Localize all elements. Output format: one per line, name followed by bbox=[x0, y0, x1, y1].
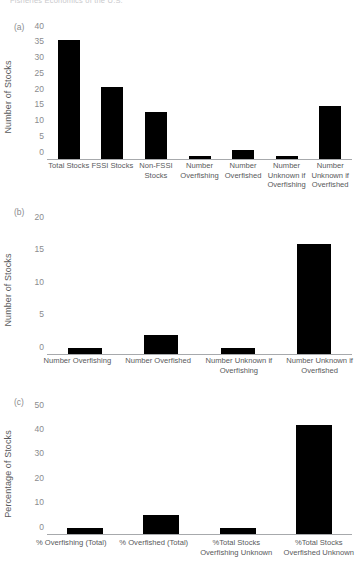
bar-slot bbox=[58, 34, 80, 159]
x-tick-label-line: Unknown if bbox=[308, 171, 352, 181]
x-tick-label: NumberUnknown ifOverfishing bbox=[265, 161, 309, 190]
y-tick-label: 10 bbox=[20, 277, 44, 286]
bar bbox=[143, 515, 179, 534]
y-axis-ticks-c: 01020304050 bbox=[20, 413, 44, 535]
y-tick-label: 0 bbox=[20, 522, 44, 531]
bar bbox=[68, 348, 102, 354]
x-tick-label-line: Overfishing bbox=[199, 366, 280, 376]
x-tick-label-line: Number Unknown if bbox=[199, 356, 280, 366]
x-tick-label-line: Total Stocks bbox=[47, 161, 91, 171]
bar-slot bbox=[319, 34, 341, 159]
x-tick-label-line: Number bbox=[308, 161, 352, 171]
bar-slot bbox=[221, 225, 255, 354]
bar bbox=[276, 156, 298, 159]
y-axis-label-b: Number of Stocks bbox=[0, 225, 16, 355]
y-tick-label: 35 bbox=[20, 37, 44, 46]
bar-slot bbox=[276, 34, 298, 159]
x-tick-label-line: Overfished bbox=[221, 171, 265, 181]
x-axis-labels-a: Total StocksFSSI StocksNon-FSSIStocksNum… bbox=[47, 161, 352, 203]
plot-area-c: Percentage of Stocks 01020304050 % Overf… bbox=[0, 395, 360, 573]
bar-group-c bbox=[47, 413, 352, 534]
bar-slot bbox=[297, 225, 331, 354]
bar-slot bbox=[67, 413, 103, 534]
bar-slot bbox=[101, 34, 123, 159]
bar-group-a bbox=[47, 34, 352, 159]
x-tick-label-line: Non-FSSI bbox=[134, 161, 178, 171]
chart-panel-b: (b) Number of Stocks 05101520 Number Ove… bbox=[0, 205, 360, 395]
y-tick-label: 20 bbox=[20, 84, 44, 93]
bar bbox=[58, 40, 80, 159]
x-tick-label-line: Overfished bbox=[308, 180, 352, 190]
y-tick-label: 10 bbox=[20, 116, 44, 125]
y-tick-label: 20 bbox=[20, 473, 44, 482]
y-tick-label: 0 bbox=[20, 342, 44, 351]
bar bbox=[319, 106, 341, 159]
y-tick-label: 5 bbox=[20, 132, 44, 141]
bar-slot bbox=[189, 34, 211, 159]
bar-slot bbox=[296, 413, 332, 534]
chart-panel-c: (c) Percentage of Stocks 01020304050 % O… bbox=[0, 395, 360, 573]
y-axis-ticks-b: 05101520 bbox=[20, 225, 44, 355]
x-tick-label: % Overfishing (Total) bbox=[30, 538, 113, 548]
x-axis-line-a bbox=[47, 159, 352, 160]
x-tick-label: %Total StocksOverfishing Unknown bbox=[195, 538, 278, 557]
bar-slot bbox=[143, 413, 179, 534]
x-tick-label-line: Number bbox=[178, 161, 222, 171]
y-tick-label: 30 bbox=[20, 53, 44, 62]
bar-slot bbox=[144, 225, 178, 354]
x-tick-label-line: Number bbox=[265, 161, 309, 171]
y-tick-label: 15 bbox=[20, 100, 44, 109]
x-tick-label: NumberOverfishing bbox=[178, 161, 222, 180]
x-tick-label-line: %Total Stocks bbox=[195, 538, 278, 548]
x-tick-label: Number Overfishing bbox=[37, 356, 118, 366]
x-tick-label: Number Overfished bbox=[118, 356, 199, 366]
y-tick-label: 10 bbox=[20, 498, 44, 507]
y-tick-label: 40 bbox=[20, 425, 44, 434]
bar bbox=[220, 528, 256, 534]
x-tick-label-line: Stocks bbox=[134, 171, 178, 181]
x-tick-label: %Total StocksOverfished Unknown bbox=[278, 538, 360, 557]
y-tick-label: 20 bbox=[20, 212, 44, 221]
plot-area-a: Number of Stocks 0510152025303540 Total … bbox=[0, 20, 360, 205]
x-tick-label-line: Overfishing Unknown bbox=[195, 548, 278, 558]
bar bbox=[189, 156, 211, 159]
x-axis-line-b bbox=[47, 354, 352, 355]
x-tick-label-line: Number Overfished bbox=[118, 356, 199, 366]
bar-slot bbox=[220, 413, 256, 534]
y-tick-label: 50 bbox=[20, 400, 44, 409]
page-header: Fisheries Economics of the U.S. bbox=[10, 0, 350, 6]
y-tick-label: 30 bbox=[20, 449, 44, 458]
y-tick-label: 0 bbox=[20, 147, 44, 156]
x-tick-label-line: Number bbox=[221, 161, 265, 171]
x-tick-label: NumberOverfished bbox=[221, 161, 265, 180]
bar bbox=[145, 112, 167, 159]
y-tick-label: 5 bbox=[20, 310, 44, 319]
x-tick-label: Total Stocks bbox=[47, 161, 91, 171]
x-tick-label-line: Overfished Unknown bbox=[278, 548, 360, 558]
x-tick-label-line: Overfishing bbox=[178, 171, 222, 181]
x-tick-label: Non-FSSIStocks bbox=[134, 161, 178, 180]
y-tick-label: 25 bbox=[20, 69, 44, 78]
bar bbox=[101, 87, 123, 159]
x-tick-label-line: Unknown if bbox=[265, 171, 309, 181]
x-tick-label-line: % Overfished (Total) bbox=[113, 538, 196, 548]
y-axis-ticks-a: 0510152025303540 bbox=[20, 34, 44, 160]
bar-group-b bbox=[47, 225, 352, 354]
x-axis-labels-b: Number OverfishingNumber OverfishedNumbe… bbox=[37, 356, 360, 389]
x-tick-label-line: Overfishing bbox=[265, 180, 309, 190]
bar-slot bbox=[145, 34, 167, 159]
x-tick-label-line: %Total Stocks bbox=[278, 538, 360, 548]
bar bbox=[221, 348, 255, 354]
bar bbox=[67, 528, 103, 534]
bar bbox=[296, 425, 332, 534]
chart-panel-a: (a) Number of Stocks 0510152025303540 To… bbox=[0, 20, 360, 205]
y-axis-label-a: Number of Stocks bbox=[0, 34, 16, 160]
bar bbox=[297, 244, 331, 354]
bar-slot bbox=[68, 225, 102, 354]
x-tick-label: NumberUnknown ifOverfished bbox=[308, 161, 352, 190]
bar bbox=[144, 335, 178, 354]
x-tick-label-line: Number Overfishing bbox=[37, 356, 118, 366]
x-tick-label-line: % Overfishing (Total) bbox=[30, 538, 113, 548]
x-tick-label: Number Unknown ifOverfished bbox=[279, 356, 360, 375]
plot-area-b: Number of Stocks 05101520 Number Overfis… bbox=[0, 205, 360, 395]
